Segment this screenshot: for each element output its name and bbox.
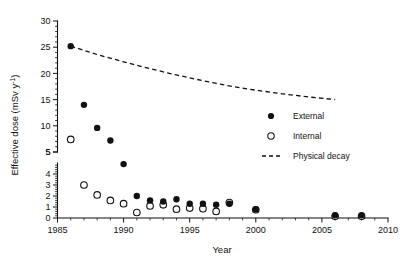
y-tick-label-lower: 5: [45, 147, 50, 157]
legend-label-external: External: [293, 111, 324, 121]
y-tick-label-upper: 25: [40, 42, 50, 52]
scatter-chart: 51015202530 012345 198519901995200020052…: [0, 0, 405, 260]
data-point-external: [187, 201, 193, 207]
legend-marker-internal: [268, 133, 274, 139]
y-axis-upper-ticks: 51015202530: [40, 16, 57, 157]
y-tick-label-upper: 30: [40, 16, 50, 26]
data-point-external: [332, 212, 338, 218]
y-axis-title: Effective dose (mSv y-1): [9, 74, 21, 175]
x-tick-label: 1985: [47, 225, 67, 235]
data-point-internal: [173, 206, 180, 213]
physical-decay-curve: [71, 46, 335, 99]
y-tick-label-lower: 4: [45, 169, 50, 179]
legend-label-physical-decay: Physical decay: [293, 151, 350, 161]
svg-text:Effective dose (mSv y-1): Effective dose (mSv y-1): [9, 74, 21, 175]
y-axis-title-tail: ): [9, 74, 20, 77]
x-axis-title: Year: [212, 244, 231, 255]
y-tick-label-upper: 20: [40, 69, 50, 79]
data-point-external: [253, 206, 259, 212]
data-point-external: [358, 212, 364, 218]
legend-marker-external: [268, 113, 274, 119]
y-tick-label-upper: 10: [40, 121, 50, 131]
data-point-external: [107, 137, 113, 143]
data-point-external: [120, 161, 126, 167]
y-tick-label-lower: 0: [45, 213, 50, 223]
chart-figure: 51015202530 012345 198519901995200020052…: [0, 0, 405, 260]
y-tick-label-lower: 1: [45, 202, 50, 212]
y-tick-label-lower: 3: [45, 180, 50, 190]
x-tick-label: 1995: [180, 225, 200, 235]
data-point-internal: [67, 136, 74, 143]
chart-legend: External Internal Physical decay: [262, 111, 350, 161]
data-point-internal: [107, 197, 114, 204]
data-point-external: [134, 193, 140, 199]
data-point-external: [226, 201, 232, 207]
data-point-external: [160, 198, 166, 204]
data-point-external: [173, 196, 179, 202]
y-axis-lower-ticks: 012345: [45, 147, 57, 223]
x-tick-label: 2010: [378, 225, 398, 235]
y-tick-label-lower: 2: [45, 191, 50, 201]
y-tick-label-upper: 15: [40, 95, 50, 105]
x-tick-label: 2000: [246, 225, 266, 235]
data-point-internal: [213, 208, 220, 215]
x-tick-label: 2005: [312, 225, 332, 235]
legend-label-internal: Internal: [293, 131, 321, 141]
data-point-internal: [94, 192, 101, 199]
x-axis-ticks: 198519901995200020052010: [47, 218, 398, 235]
data-point-internal: [81, 182, 88, 189]
x-tick-label: 1990: [114, 225, 134, 235]
data-point-internal: [134, 209, 141, 216]
y-axis-title-text: Effective dose (mSv y: [9, 84, 20, 176]
data-point-external: [200, 201, 206, 207]
data-point-external: [147, 197, 153, 203]
data-point-external: [81, 102, 87, 108]
data-point-external: [68, 43, 74, 49]
data-point-internal: [120, 200, 127, 207]
data-point-external: [213, 202, 219, 208]
data-point-external: [94, 125, 100, 131]
